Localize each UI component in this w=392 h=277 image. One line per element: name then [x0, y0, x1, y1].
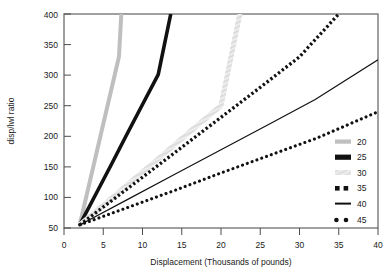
legend-label-30: 30: [357, 168, 367, 178]
y-tick-label: 100: [44, 192, 58, 202]
legend-label-20: 20: [357, 137, 367, 147]
y-tick-label: 250: [44, 101, 58, 111]
legend-swatch-30-tint: [335, 170, 351, 175]
x-tick-label: 35: [334, 240, 344, 250]
x-axis-title: Displacement (Thousands of pounds): [150, 257, 291, 267]
y-tick-label: 350: [44, 40, 58, 50]
x-tick-label: 15: [177, 240, 187, 250]
x-tick-label: 20: [216, 240, 226, 250]
y-tick-label: 200: [44, 131, 58, 141]
legend-swatch-20: [335, 140, 351, 144]
x-tick-label: 0: [62, 240, 67, 250]
chart-container: 50 100 150 200 250 300 350 400 0 5 10 15…: [0, 0, 392, 277]
x-tick-label: 10: [138, 240, 148, 250]
legend-swatch-25: [335, 155, 351, 160]
y-tick-label: 300: [44, 70, 58, 80]
line-chart: 50 100 150 200 250 300 350 400 0 5 10 15…: [0, 0, 392, 277]
legend-label-35: 35: [357, 183, 367, 193]
x-tick-label: 25: [256, 240, 266, 250]
legend-swatch-35-a: [335, 186, 340, 191]
legend-swatch-45-b: [344, 218, 349, 223]
legend-label-25: 25: [357, 152, 367, 162]
x-tick-label: 5: [101, 240, 106, 250]
legend-label-45: 45: [357, 215, 367, 225]
legend-swatch-40: [335, 203, 351, 205]
y-tick-label: 150: [44, 162, 58, 172]
legend-swatch-35-b: [344, 186, 349, 191]
legend-swatch-45-a: [334, 218, 339, 223]
x-tick-label: 40: [373, 240, 383, 250]
y-axis-title: disp/lwl ratio: [6, 97, 16, 144]
x-tick-label: 30: [295, 240, 305, 250]
y-tick-label: 400: [44, 10, 58, 20]
chart-background: [0, 0, 392, 277]
y-tick-label: 50: [49, 223, 59, 233]
legend-label-40: 40: [357, 199, 367, 209]
